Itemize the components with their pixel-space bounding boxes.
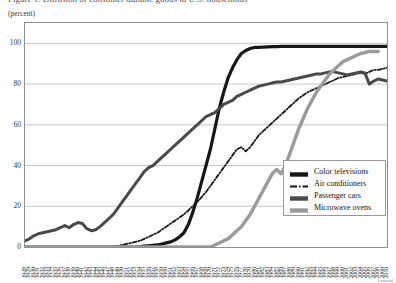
source-note: (source) xyxy=(378,278,393,283)
y-tick-label: 40 xyxy=(5,160,21,169)
y-tick-label: 60 xyxy=(5,119,21,128)
legend-swatch-microwave-ovens xyxy=(289,202,309,213)
series-line-air-conditioners xyxy=(25,68,387,247)
legend-item-passenger-cars[interactable]: Passenger cars xyxy=(289,189,381,201)
y-tick-label: 0 xyxy=(5,242,21,251)
y-axis-unit-label: (percent) xyxy=(8,9,35,18)
chart-legend: Color televisions Air conditioners Passe… xyxy=(283,160,386,216)
series-line-color-televisions xyxy=(25,46,387,247)
legend-label-microwave-ovens: Microwave ovens xyxy=(314,203,371,212)
figure-title: Figure 1. Diffusion of consumer durable … xyxy=(8,0,388,4)
legend-swatch-color-televisions xyxy=(289,166,309,177)
legend-swatch-air-conditioners xyxy=(289,178,309,189)
legend-item-microwave-ovens[interactable]: Microwave ovens xyxy=(289,201,381,213)
y-tick-label: 100 xyxy=(5,38,21,47)
legend-swatch-passenger-cars xyxy=(289,190,309,201)
x-axis-ticks: 1928192919301931193219331934193519361937… xyxy=(24,249,388,279)
y-tick-label: 80 xyxy=(5,79,21,88)
figure-container: Figure 1. Diffusion of consumer durable … xyxy=(0,0,396,283)
series-line-microwave-ovens xyxy=(25,52,378,247)
y-tick-label: 20 xyxy=(5,201,21,210)
legend-label-passenger-cars: Passenger cars xyxy=(314,191,361,200)
legend-item-air-conditioners[interactable]: Air conditioners xyxy=(289,177,381,189)
legend-label-air-conditioners: Air conditioners xyxy=(314,179,366,188)
legend-label-color-televisions: Color televisions xyxy=(314,167,368,176)
legend-item-color-televisions[interactable]: Color televisions xyxy=(289,165,381,177)
